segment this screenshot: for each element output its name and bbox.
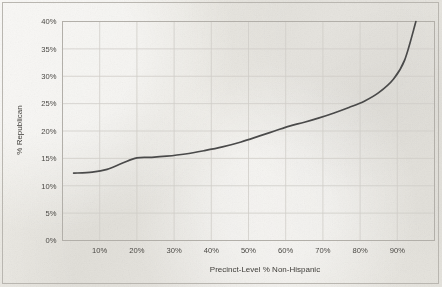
x-tick-label: 50% — [241, 246, 256, 255]
gridlines-group — [63, 22, 435, 241]
data-series-line — [74, 22, 416, 174]
x-tick-label: 70% — [315, 246, 330, 255]
y-tick-label: 15% — [41, 154, 56, 163]
x-tick-label: 40% — [204, 246, 219, 255]
x-tick-label: 60% — [278, 246, 293, 255]
line-chart: 0%5%10%15%20%25%30%35%40% 10%20%30%40%50… — [0, 0, 442, 287]
x-axis-tick-labels: 10%20%30%40%50%60%70%80%90% — [92, 246, 405, 255]
x-tick-label: 20% — [129, 246, 144, 255]
x-tick-label: 10% — [92, 246, 107, 255]
x-tick-label: 90% — [390, 246, 405, 255]
y-tick-label: 25% — [41, 99, 56, 108]
y-axis-tick-labels: 0%5%10%15%20%25%30%35%40% — [41, 17, 56, 245]
y-tick-label: 30% — [41, 72, 56, 81]
chart-svg: 0%5%10%15%20%25%30%35%40% 10%20%30%40%50… — [0, 0, 442, 287]
y-axis-title: % Republican — [15, 105, 24, 154]
y-tick-label: 40% — [41, 17, 56, 26]
x-tick-label: 30% — [166, 246, 181, 255]
x-tick-label: 80% — [352, 246, 367, 255]
x-axis-title: Precinct-Level % Non-Hispanic — [210, 265, 320, 274]
y-tick-label: 10% — [41, 182, 56, 191]
y-tick-label: 20% — [41, 127, 56, 136]
y-tick-label: 5% — [46, 209, 57, 218]
y-tick-label: 0% — [46, 236, 57, 245]
y-tick-label: 35% — [41, 45, 56, 54]
